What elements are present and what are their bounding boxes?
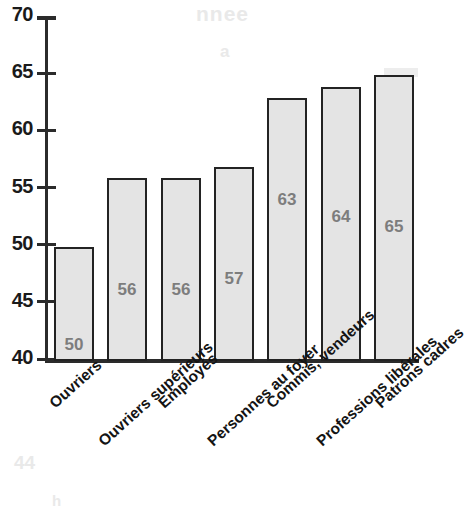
y-axis-label-40: 40	[0, 346, 33, 369]
bar-value-label: 56	[109, 280, 145, 300]
bar-value-label: 57	[216, 269, 252, 289]
y-axis-label-55: 55	[0, 175, 33, 198]
x-axis-label-0: Ouvriers	[46, 356, 105, 412]
bar-value-label: 63	[269, 190, 305, 210]
bar-value-label: 50	[56, 335, 92, 355]
bar: 56	[107, 178, 147, 361]
y-axis-label-45: 45	[0, 289, 33, 312]
bar: 56	[161, 178, 201, 361]
y-axis-label-50: 50	[0, 232, 33, 255]
y-axis-label-60: 60	[0, 117, 33, 140]
y-axis-label-65: 65	[0, 60, 33, 83]
bar: 63	[267, 98, 307, 361]
bar: 65	[374, 75, 414, 361]
bar: 57	[214, 167, 254, 361]
bar-value-label: 64	[323, 207, 359, 227]
ghost-text-bottom-left-2: h	[52, 492, 61, 509]
bar: 50	[54, 247, 94, 361]
bar-value-label: 65	[376, 217, 412, 237]
ghost-text-bottom-left: 44	[14, 452, 35, 474]
y-axis-label-70: 70	[0, 3, 33, 26]
bar-value-label: 56	[163, 280, 199, 300]
